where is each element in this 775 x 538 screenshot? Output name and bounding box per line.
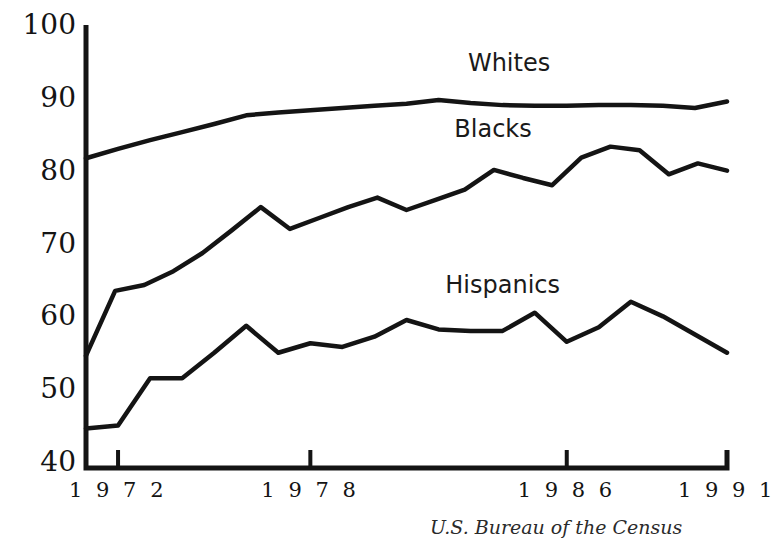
y-tick-80: 80 [40, 157, 76, 185]
axis-lines [86, 25, 727, 468]
line-hispanics [86, 302, 727, 429]
x-tick-1986: 1 9 8 6 [507, 480, 627, 501]
x-tick-1991: 1 9 9 1 [667, 480, 775, 501]
y-tick-50: 50 [40, 375, 76, 403]
x-tick-1972: 1 9 7 2 [58, 480, 178, 501]
series-label-whites: Whites [466, 51, 552, 75]
x-tick-1978: 1 9 7 8 [250, 480, 370, 501]
line-blacks [86, 147, 727, 356]
y-tick-40: 40 [40, 448, 76, 476]
y-tick-100: 100 [23, 11, 76, 39]
series-lines [86, 100, 727, 428]
y-tick-90: 90 [40, 84, 76, 112]
axis-ticks [118, 450, 567, 468]
y-tick-60: 60 [40, 302, 76, 330]
y-tick-70: 70 [40, 230, 76, 258]
series-label-hispanics: Hispanics [443, 273, 562, 297]
series-label-blacks: Blacks [452, 117, 533, 141]
source-note: U.S. Bureau of the Census [430, 518, 682, 537]
